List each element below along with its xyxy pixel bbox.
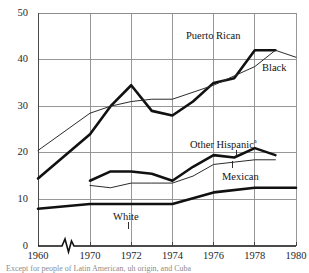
y-axis-tick-0: 0: [2, 241, 28, 252]
chart-canvas: [0, 0, 309, 273]
label-leader-lines: [128, 150, 236, 229]
x-axis-tick-1978: 1978: [238, 251, 272, 262]
x-axis-tick-1974: 1974: [155, 251, 189, 262]
series-paths: [38, 50, 296, 208]
x-axis-tick-1980: 1980: [279, 251, 309, 262]
y-axis-tick-20: 20: [2, 147, 28, 158]
x-axis-tick-1972: 1972: [114, 251, 148, 262]
axis-lines: [38, 13, 296, 252]
series-label-other-hispanic: Other Hispanica: [190, 138, 257, 150]
x-axis-tick-1976: 1976: [197, 251, 231, 262]
footnote-marker-superscript: a: [254, 137, 257, 144]
series-label-black-text: Black: [262, 62, 287, 73]
figure-footnote: Except for people of Latin American, uh …: [6, 264, 306, 273]
y-axis-tick-30: 30: [2, 101, 28, 112]
series-label-other-hispanic-text: Other Hispanic: [190, 139, 254, 150]
series-label-mexican-text: Mexican: [222, 171, 259, 182]
series-label-puerto-rican-text: Puerto Rican: [186, 30, 241, 41]
series-label-black: Black: [262, 63, 287, 74]
series-line-puerto-rican: [38, 50, 275, 178]
x-axis-tick-1960: 1960: [21, 251, 55, 262]
line-chart-figure: 01020304050 1960197019721974197619781980…: [0, 0, 309, 273]
series-line-white: [38, 188, 296, 209]
series-label-puerto-rican: Puerto Rican: [186, 31, 241, 42]
gridlines: [38, 13, 296, 246]
series-label-mexican: Mexican: [222, 172, 259, 183]
y-axis-tick-10: 10: [2, 194, 28, 205]
y-axis-tick-50: 50: [2, 8, 28, 19]
y-axis-tick-40: 40: [2, 54, 28, 65]
series-label-white: White: [113, 212, 139, 223]
x-axis-tick-1970: 1970: [73, 251, 107, 262]
series-label-white-text: White: [113, 211, 139, 222]
series-line-black: [38, 50, 296, 150]
